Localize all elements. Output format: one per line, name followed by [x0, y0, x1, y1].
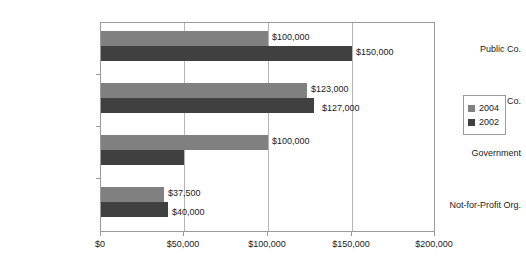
xaxis-tick — [267, 232, 268, 236]
legend-item-2004[interactable]: 2004 — [468, 101, 501, 115]
gridline-150000 — [352, 23, 353, 231]
legend-label-2002: 2002 — [479, 118, 499, 127]
bar-not-for-profit-org-2002[interactable] — [101, 202, 168, 217]
category-tick — [96, 178, 100, 179]
bar-value-not-for-profit-org-2002: $40,000 — [172, 208, 205, 217]
legend-swatch-icon-2004 — [468, 105, 475, 112]
legend-swatch-icon-2002 — [468, 119, 475, 126]
bar-government-2002[interactable] — [101, 150, 184, 165]
bar-not-for-profit-org-2004[interactable] — [101, 187, 164, 202]
category-label-public-co: Public Co. — [430, 45, 526, 54]
bar-value-public-co-2004: $100,000 — [272, 33, 310, 42]
xaxis-tick — [183, 232, 184, 236]
bar-value-public-co-2002: $150,000 — [356, 48, 394, 57]
bar-chart: $100,000 $150,000 $123,000 $127,000 $100… — [0, 0, 526, 261]
xaxis-label-100000: $100,000 — [248, 240, 286, 249]
xaxis-label-150000: $150,000 — [332, 240, 370, 249]
bar-public-co-2004[interactable] — [101, 31, 268, 46]
bar-value-government-2004: $100,000 — [272, 137, 310, 146]
bar-private-co-2002[interactable] — [101, 98, 314, 113]
bar-private-co-2004[interactable] — [101, 83, 307, 98]
bar-government-2004[interactable] — [101, 135, 268, 150]
xaxis-tick — [351, 232, 352, 236]
legend-label-2004: 2004 — [479, 104, 499, 113]
bar-value-private-co-2004: $123,000 — [311, 85, 349, 94]
xaxis-label-0: $0 — [95, 240, 105, 249]
bar-value-not-for-profit-org-2004: $37,500 — [168, 189, 201, 198]
xaxis-label-200000: $200,000 — [415, 240, 453, 249]
category-tick — [96, 126, 100, 127]
category-label-government: Government — [430, 149, 526, 158]
xaxis-label-50000: $50,000 — [167, 240, 200, 249]
bar-value-private-co-2002: $127,000 — [322, 104, 360, 113]
category-tick — [96, 74, 100, 75]
legend: 2004 2002 — [463, 95, 506, 135]
category-label-not-for-profit-org: Not-for-Profit Org. — [430, 201, 526, 210]
xaxis-tick — [434, 232, 435, 236]
legend-item-2002[interactable]: 2002 — [468, 115, 501, 129]
bar-public-co-2002[interactable] — [101, 46, 352, 61]
xaxis-tick — [100, 232, 101, 236]
